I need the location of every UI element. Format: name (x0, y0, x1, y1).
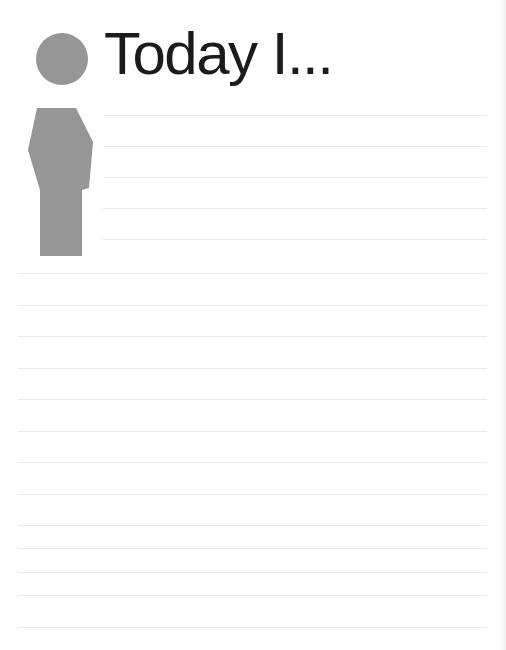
writing-line-17[interactable] (18, 595, 487, 596)
writing-line-2[interactable] (103, 146, 487, 147)
person-body-icon (28, 108, 93, 256)
writing-line-18[interactable] (18, 627, 487, 628)
writing-line-5[interactable] (103, 239, 487, 240)
writing-line-16[interactable] (18, 572, 487, 573)
writing-line-11[interactable] (18, 431, 487, 432)
writing-line-14[interactable] (18, 525, 487, 526)
writing-line-7[interactable] (18, 305, 487, 306)
writing-line-8[interactable] (18, 336, 487, 337)
writing-line-3[interactable] (103, 177, 487, 178)
page-title: Today I... (104, 22, 332, 85)
writing-line-6[interactable] (18, 273, 487, 274)
writing-line-1[interactable] (103, 115, 487, 116)
writing-line-9[interactable] (18, 368, 487, 369)
writing-line-12[interactable] (18, 462, 487, 463)
person-head-icon (36, 33, 88, 85)
person-silhouette-icon (18, 30, 98, 260)
writing-line-15[interactable] (18, 548, 487, 549)
worksheet-page: Today I... (0, 0, 506, 650)
writing-line-4[interactable] (103, 208, 487, 209)
writing-line-13[interactable] (18, 494, 487, 495)
page-edge-shadow (497, 0, 506, 650)
person-silhouette-svg (18, 30, 98, 260)
writing-line-10[interactable] (18, 399, 487, 400)
